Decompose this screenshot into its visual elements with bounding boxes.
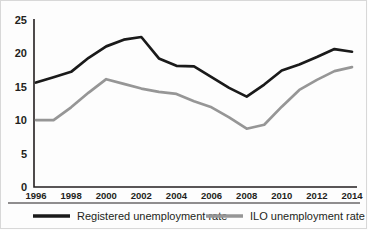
x-tick-label: 2006 <box>201 190 222 201</box>
unemployment-rate-line-chart: 0510152025 19961998200020022004200620082… <box>0 0 368 230</box>
legend-label-registered: Registered unemployment rate <box>77 210 227 222</box>
x-tick-label: 1996 <box>25 190 46 201</box>
x-tick-label: 2012 <box>306 190 327 201</box>
chart-legend: Registered unemployment rateILO unemploy… <box>33 210 365 222</box>
chart-series-group <box>36 37 352 129</box>
x-tick-label: 2014 <box>341 190 363 201</box>
x-tick-label: 2010 <box>271 190 292 201</box>
x-tick-label: 2008 <box>236 190 257 201</box>
y-tick-label: 10 <box>15 114 27 126</box>
y-tick-label: 15 <box>15 81 27 93</box>
x-tick-label: 2004 <box>166 190 188 201</box>
x-tick-label: 1998 <box>61 190 82 201</box>
chart-plot-area: 0510152025 19961998200020022004200620082… <box>0 0 368 230</box>
y-axis-tick-labels: 0510152025 <box>15 14 27 193</box>
legend-label-ilo: ILO unemployment rate <box>250 210 365 222</box>
series-line-ilo <box>36 67 352 129</box>
x-tick-label: 2000 <box>96 190 117 201</box>
y-tick-label: 20 <box>15 47 27 59</box>
x-axis-tick-labels: 1996199820002002200420062008201020122014 <box>25 190 363 201</box>
y-tick-label: 5 <box>21 148 27 160</box>
y-tick-label: 25 <box>15 14 27 26</box>
x-tick-label: 2002 <box>131 190 152 201</box>
